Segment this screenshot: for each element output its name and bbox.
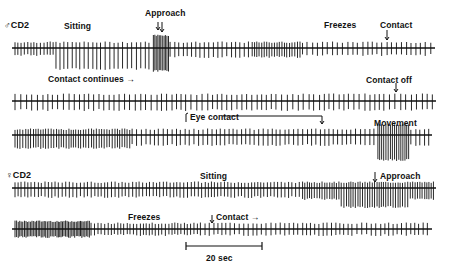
ecg-trace-male-row1 xyxy=(0,0,450,80)
scale-bar-label: 20 sec xyxy=(206,253,233,263)
ecg-trace-female-row1 xyxy=(0,170,450,210)
ecg-trace-male-row3 xyxy=(0,110,450,160)
